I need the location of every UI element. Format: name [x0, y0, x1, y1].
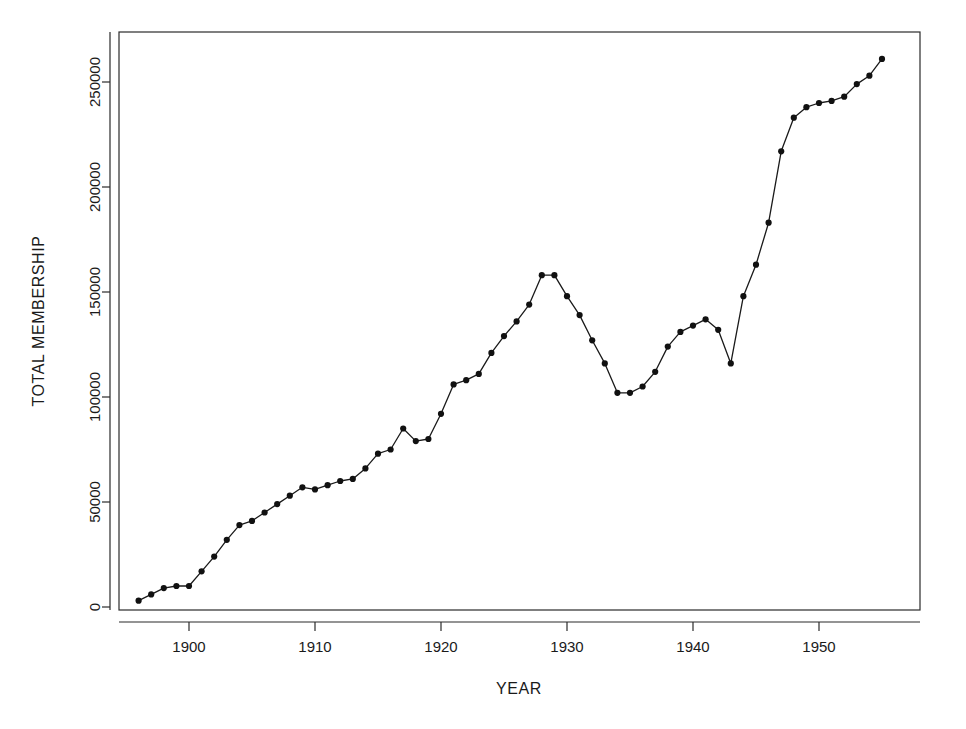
- data-point: [690, 323, 696, 329]
- data-point: [400, 425, 406, 431]
- y-tick-label: 200000: [86, 162, 103, 212]
- data-point: [262, 509, 268, 515]
- data-point: [287, 493, 293, 499]
- data-point: [350, 476, 356, 482]
- data-point: [463, 377, 469, 383]
- data-point: [728, 360, 734, 366]
- data-point: [161, 585, 167, 591]
- y-tick-label: 150000: [86, 267, 103, 317]
- x-tick-label: 1910: [298, 638, 331, 655]
- data-point: [627, 390, 633, 396]
- data-point: [236, 522, 242, 528]
- line-chart: 050000100000150000200000250000 190019101…: [0, 0, 966, 729]
- y-tick-label: 250000: [86, 57, 103, 107]
- data-point: [703, 316, 709, 322]
- data-point: [375, 451, 381, 457]
- data-point: [740, 293, 746, 299]
- data-point: [413, 438, 419, 444]
- data-point: [551, 272, 557, 278]
- data-point: [211, 554, 217, 560]
- data-point: [602, 360, 608, 366]
- y-tick-label: 0: [86, 603, 103, 611]
- data-point: [199, 568, 205, 574]
- chart-figure: 050000100000150000200000250000 190019101…: [0, 0, 966, 729]
- data-point: [438, 411, 444, 417]
- data-point: [753, 262, 759, 268]
- data-point: [665, 344, 671, 350]
- data-point: [766, 220, 772, 226]
- x-axis-title: YEAR: [496, 680, 542, 697]
- data-point: [425, 436, 431, 442]
- data-point: [148, 591, 154, 597]
- x-tick-label: 1920: [424, 638, 457, 655]
- data-point: [526, 302, 532, 308]
- data-point: [186, 583, 192, 589]
- data-point: [577, 312, 583, 318]
- data-point: [879, 56, 885, 62]
- y-axis-title: TOTAL MEMBERSHIP: [30, 235, 47, 406]
- data-point: [514, 318, 520, 324]
- x-tick-label: 1950: [802, 638, 835, 655]
- data-point: [173, 583, 179, 589]
- data-point: [564, 293, 570, 299]
- data-point: [501, 333, 507, 339]
- data-point: [451, 381, 457, 387]
- data-point: [715, 327, 721, 333]
- data-point: [791, 115, 797, 121]
- data-point: [388, 446, 394, 452]
- x-tick-label: 1900: [172, 638, 205, 655]
- data-point: [677, 329, 683, 335]
- data-point: [224, 537, 230, 543]
- data-point: [362, 465, 368, 471]
- y-tick-label: 50000: [86, 481, 103, 523]
- data-point: [488, 350, 494, 356]
- data-point: [325, 482, 331, 488]
- data-point: [614, 390, 620, 396]
- data-point: [539, 272, 545, 278]
- chart-background: [0, 0, 966, 729]
- data-point: [274, 501, 280, 507]
- x-tick-label: 1940: [676, 638, 709, 655]
- data-point: [854, 81, 860, 87]
- x-tick-label: 1930: [550, 638, 583, 655]
- data-point: [829, 98, 835, 104]
- data-point: [778, 148, 784, 154]
- data-point: [136, 598, 142, 604]
- data-point: [299, 484, 305, 490]
- data-point: [841, 94, 847, 100]
- data-point: [312, 486, 318, 492]
- data-point: [816, 100, 822, 106]
- y-tick-label: 100000: [86, 372, 103, 422]
- data-point: [640, 383, 646, 389]
- data-point: [476, 371, 482, 377]
- data-point: [866, 73, 872, 79]
- data-point: [589, 337, 595, 343]
- data-point: [803, 104, 809, 110]
- data-point: [337, 478, 343, 484]
- data-point: [249, 518, 255, 524]
- data-point: [652, 369, 658, 375]
